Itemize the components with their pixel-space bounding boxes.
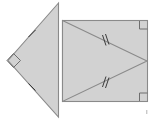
geometry-figure-canvas: Congruent right triangles figure A large… — [0, 0, 160, 120]
page-artifact-speck — [146, 110, 147, 114]
left-triangle-shape — [8, 3, 59, 117]
geometry-svg — [0, 0, 160, 120]
